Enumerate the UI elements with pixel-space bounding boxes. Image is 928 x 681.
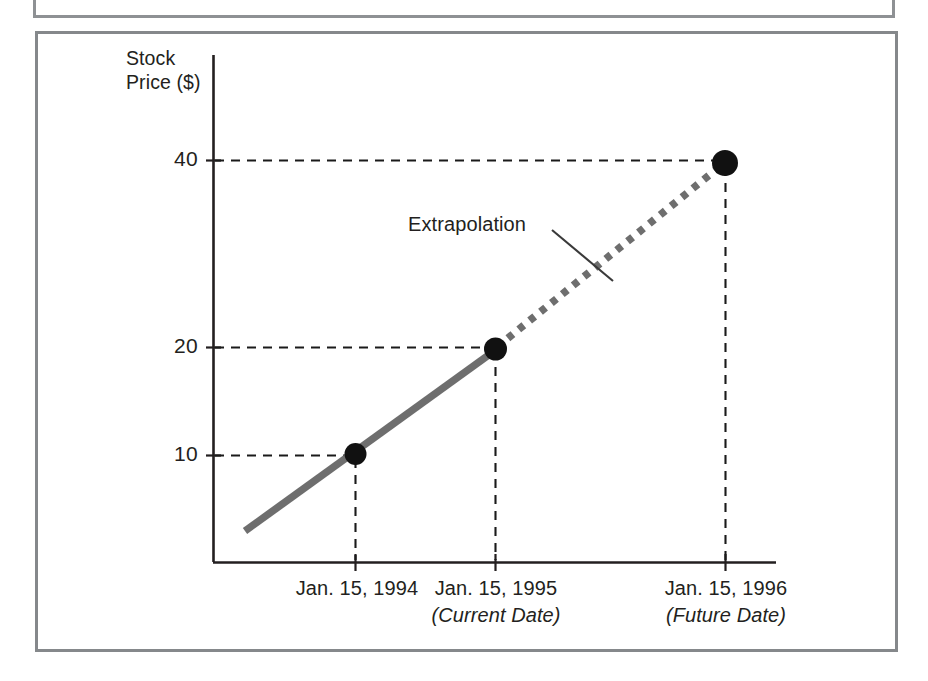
- extrapolation-annotation-label: Extrapolation: [408, 213, 526, 236]
- horizontal-guide-lines: [215, 161, 722, 456]
- data-point-1995: [484, 338, 507, 361]
- x-tick-label-1996-date: Jan. 15, 1996: [631, 575, 821, 602]
- scanned-page: Stock Price ($) 40 20 10 Jan. 15, 1994 J…: [0, 0, 928, 681]
- x-tick-label-1996: Jan. 15, 1996 (Future Date): [631, 575, 821, 629]
- x-tick-label-1996-note: (Future Date): [631, 602, 821, 629]
- x-tick-label-1995-note: (Current Date): [401, 602, 591, 629]
- y-tick-label-40: 40: [142, 147, 198, 171]
- series-historical-line: [245, 349, 497, 531]
- y-tick-label-20: 20: [142, 334, 198, 358]
- y-tick-label-10: 10: [142, 442, 198, 466]
- series-extrapolation-line: [497, 164, 723, 347]
- y-axis-title: Stock Price ($): [126, 46, 201, 94]
- x-tick-label-1995-date: Jan. 15, 1995: [401, 575, 591, 602]
- data-point-1994: [345, 443, 367, 465]
- data-point-1996: [712, 150, 738, 176]
- x-tick-label-1995: Jan. 15, 1995 (Current Date): [401, 575, 591, 629]
